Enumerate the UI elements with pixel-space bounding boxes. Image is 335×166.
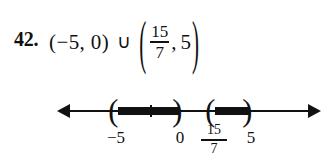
expression-fraction-denominator: 7 — [154, 43, 165, 61]
interval-segment-neg5-to-0 — [118, 107, 180, 115]
expression-comma: , — [171, 32, 176, 53]
number-line-axis — [66, 110, 314, 112]
expression-close-paren: ) — [192, 14, 199, 74]
axis-fraction-denominator: 7 — [210, 142, 219, 157]
axis-fraction-numerator: 15 — [206, 123, 222, 138]
union-symbol: ∪ — [117, 32, 131, 51]
expression-fraction: 15 7 — [150, 23, 169, 62]
left-arrow-icon — [57, 104, 70, 118]
interval-expression: (−5, 0) ∪ ( 15 7 , 5 ) — [49, 16, 200, 68]
interval-open-paren-fifteen-sevenths: ( — [205, 96, 215, 124]
interval-open-paren-neg5: ( — [108, 96, 118, 124]
interval-close-paren-5: ) — [242, 96, 252, 124]
axis-label-0: 0 — [166, 129, 194, 146]
axis-label-neg5: −5 — [100, 129, 132, 146]
expression-open-paren: ( — [139, 14, 146, 74]
expression-fraction-numerator: 15 — [150, 23, 169, 41]
number-line-diagram: ( ) ( ) −5 0 15 7 5 — [0, 83, 335, 166]
expression-upper-bound: 5 — [180, 32, 191, 53]
axis-label-5: 5 — [238, 129, 264, 146]
interval-close-paren-0: ) — [172, 96, 182, 124]
interval-one-text: (−5, 0) — [49, 32, 109, 53]
problem-number: 42. — [14, 29, 38, 49]
right-arrow-icon — [308, 104, 321, 118]
axis-label-fifteen-sevenths: 15 7 — [201, 123, 227, 156]
problem-expression-row: 42. (−5, 0) ∪ ( 15 7 , 5 ) — [0, 0, 335, 83]
